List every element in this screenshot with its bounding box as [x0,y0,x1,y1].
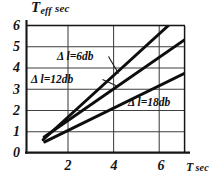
annotation-label-18db: Δ l=18db [128,96,170,108]
annotation-label-6db: Δ l=6db [57,50,93,62]
plot-svg [0,0,217,187]
chart-figure: Teffsec Tsec 6 5 4 3 2 1 0 2 4 6 [0,0,217,187]
grid-horizontal [26,47,185,132]
annotation-label-12db: Δ l=12db [31,73,73,85]
